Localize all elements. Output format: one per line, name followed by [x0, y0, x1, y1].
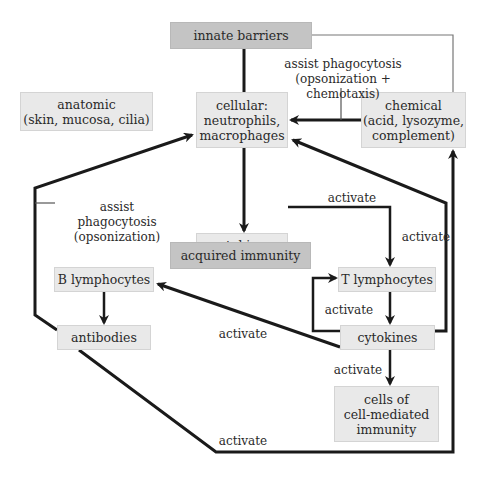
label-chemical-to-cellular: assist phagocytosis (opsonization + chem…	[263, 57, 423, 102]
label-cytokines-to-b: activate	[213, 327, 273, 342]
node-cell-mediated: cells of cell-mediated immunity	[334, 386, 439, 442]
node-cytokines-acquired: cytokines	[340, 325, 435, 350]
label-cytokines-to-t-top: activate	[322, 191, 382, 206]
label-loop-cytokines-to-t: activate	[319, 303, 379, 318]
node-anatomic: anatomic (skin, mucosa, cilia)	[20, 92, 153, 131]
label-antibodies-to-cellular: assist phagocytosis (opsonization)	[62, 200, 172, 245]
node-t-lymphocytes: T lymphocytes	[338, 267, 436, 292]
node-b-lymphocytes: B lymphocytes	[54, 267, 154, 292]
node-innate-barriers: innate barriers	[170, 22, 312, 49]
label-antibodies-to-chemical: activate	[213, 434, 273, 449]
node-acquired-immunity: acquired immunity	[170, 242, 311, 269]
label-cytokines-to-cells: activate	[328, 363, 388, 378]
label-cytokines-to-t-side: activate	[396, 230, 456, 245]
node-antibodies: antibodies	[57, 325, 151, 350]
